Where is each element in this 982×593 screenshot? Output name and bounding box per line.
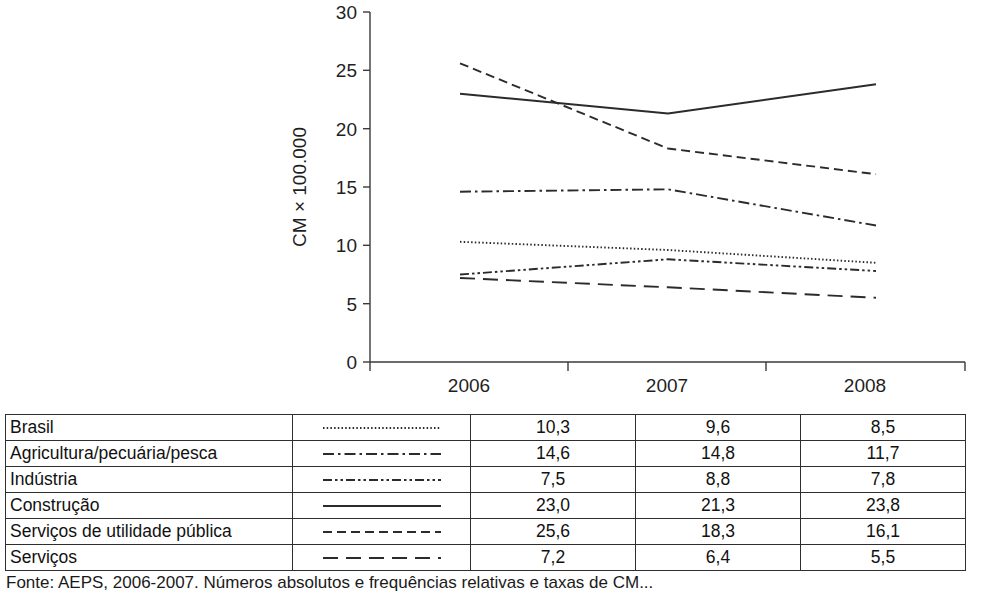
table-row: Serviços7,26,45,5 xyxy=(6,545,966,571)
x-tick-label-2006: 2006 xyxy=(448,375,490,396)
table-row: Agricultura/pecuária/pesca14,614,811,7 xyxy=(6,441,966,467)
value-cell-2008: 7,8 xyxy=(801,467,966,493)
source-note: Fonte: AEPS, 2006-2007. Números absoluto… xyxy=(6,573,976,593)
value-cell-2008: 11,7 xyxy=(801,441,966,467)
y-axis-title: CM × 100.000 xyxy=(289,127,310,247)
line-style-swatch xyxy=(293,493,471,519)
y-tick-25: 25 xyxy=(336,60,370,81)
value-cell-2006: 25,6 xyxy=(471,519,636,545)
y-tick-label: 10 xyxy=(336,235,357,256)
y-tick-15: 15 xyxy=(336,177,370,198)
value-cell-2006: 7,2 xyxy=(471,545,636,571)
y-tick-label: 25 xyxy=(336,60,357,81)
y-tick-label: 15 xyxy=(336,177,357,198)
series-line-2 xyxy=(460,259,876,274)
line-style-swatch xyxy=(293,545,471,571)
value-cell-2008: 16,1 xyxy=(801,519,966,545)
table-row: Indústria7,58,87,8 xyxy=(6,467,966,493)
y-tick-5: 5 xyxy=(346,294,370,315)
series-name-cell: Serviços xyxy=(6,545,293,571)
line-style-swatch xyxy=(293,519,471,545)
series-group xyxy=(460,63,876,297)
value-cell-2008: 8,5 xyxy=(801,415,966,441)
series-name-cell: Brasil xyxy=(6,415,293,441)
value-cell-2007: 18,3 xyxy=(636,519,801,545)
series-name-cell: Construção xyxy=(6,493,293,519)
x-tick-label-2008: 2008 xyxy=(844,375,886,396)
y-tick-label: 5 xyxy=(346,294,357,315)
value-cell-2006: 10,3 xyxy=(471,415,636,441)
value-cell-2006: 7,5 xyxy=(471,467,636,493)
series-name-cell: Serviços de utilidade pública xyxy=(6,519,293,545)
series-line-5 xyxy=(460,278,876,298)
y-tick-0: 0 xyxy=(346,352,370,373)
line-style-swatch xyxy=(293,467,471,493)
series-name-cell: Agricultura/pecuária/pesca xyxy=(6,441,293,467)
chart-region: CM × 100.000 30 25 20 15 10 xyxy=(0,0,982,408)
value-cell-2007: 9,6 xyxy=(636,415,801,441)
x-axis: 2006 2007 2008 xyxy=(370,362,965,396)
legend-data-table: Brasil10,39,68,5Agricultura/pecuária/pes… xyxy=(5,414,966,571)
series-line-3 xyxy=(460,84,876,113)
value-cell-2007: 21,3 xyxy=(636,493,801,519)
y-tick-label: 20 xyxy=(336,119,357,140)
table-row: Brasil10,39,68,5 xyxy=(6,415,966,441)
value-cell-2007: 8,8 xyxy=(636,467,801,493)
table-row: Serviços de utilidade pública25,618,316,… xyxy=(6,519,966,545)
y-axis: 30 25 20 15 10 5 xyxy=(336,2,370,373)
y-tick-label: 30 xyxy=(336,2,357,23)
value-cell-2008: 5,5 xyxy=(801,545,966,571)
value-cell-2006: 14,6 xyxy=(471,441,636,467)
line-style-swatch xyxy=(293,415,471,441)
y-tick-label: 0 xyxy=(346,352,357,373)
series-line-4 xyxy=(460,63,876,174)
line-chart: CM × 100.000 30 25 20 15 10 xyxy=(0,0,982,408)
y-tick-20: 20 xyxy=(336,119,370,140)
value-cell-2007: 6,4 xyxy=(636,545,801,571)
x-tick-label-2007: 2007 xyxy=(646,375,688,396)
value-cell-2008: 23,8 xyxy=(801,493,966,519)
table-row: Construção23,021,323,8 xyxy=(6,493,966,519)
line-style-swatch xyxy=(293,441,471,467)
y-tick-10: 10 xyxy=(336,235,370,256)
value-cell-2007: 14,8 xyxy=(636,441,801,467)
value-cell-2006: 23,0 xyxy=(471,493,636,519)
y-tick-30: 30 xyxy=(336,2,370,23)
series-name-cell: Indústria xyxy=(6,467,293,493)
series-line-1 xyxy=(460,189,876,225)
